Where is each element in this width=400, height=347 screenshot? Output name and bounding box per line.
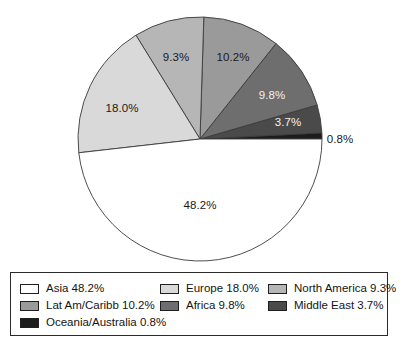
legend-item-label: Middle East 3.7%	[294, 299, 384, 312]
pie-slice-label: 10.2%	[216, 51, 249, 63]
legend-swatch-lat-am-caribb	[20, 301, 39, 311]
legend-item[interactable]: Lat Am/Caribb 10.2%	[20, 299, 160, 312]
legend-swatch-africa	[160, 301, 179, 311]
legend-item-label: Africa 9.8%	[186, 299, 245, 312]
pie-chart: 0.8%3.7%9.8%10.2%9.3%18.0%48.2%	[0, 0, 400, 268]
legend-item[interactable]: Middle East 3.7%	[268, 299, 382, 312]
legend-swatch-europe	[160, 284, 179, 294]
legend-row: Lat Am/Caribb 10.2%Africa 9.8%Middle Eas…	[20, 297, 382, 314]
pie-slice-group	[78, 17, 322, 261]
legend-item-label: Lat Am/Caribb 10.2%	[46, 299, 155, 312]
legend-swatch-oceania-australia	[20, 318, 39, 328]
legend-item-label: Europe 18.0%	[186, 282, 259, 295]
chart-legend: Asia 48.2%Europe 18.0%North America 9.3%…	[10, 272, 388, 336]
legend-row: Asia 48.2%Europe 18.0%North America 9.3%	[20, 280, 382, 297]
legend-grid: Asia 48.2%Europe 18.0%North America 9.3%…	[20, 280, 382, 331]
legend-swatch-asia	[20, 284, 39, 294]
legend-item[interactable]: Oceania/Australia 0.8%	[20, 316, 160, 329]
legend-item[interactable]: Africa 9.8%	[160, 299, 268, 312]
legend-swatch-north-america	[268, 284, 287, 294]
legend-item[interactable]: Europe 18.0%	[160, 282, 268, 295]
pie-slice-label: 18.0%	[105, 102, 138, 114]
pie-slice-label: 3.7%	[275, 116, 302, 128]
pie-slice-label: 48.2%	[183, 199, 216, 211]
legend-item[interactable]: Asia 48.2%	[20, 282, 160, 295]
legend-item-label: Asia 48.2%	[46, 282, 104, 295]
legend-swatch-middle-east	[268, 301, 287, 311]
legend-item[interactable]: North America 9.3%	[268, 282, 382, 295]
pie-slice-label: 9.8%	[259, 89, 286, 101]
legend-item-label: North America 9.3%	[294, 282, 396, 295]
legend-item-label: Oceania/Australia 0.8%	[46, 316, 166, 329]
legend-row: Oceania/Australia 0.8%	[20, 314, 382, 331]
pie-slice-label: 0.8%	[327, 133, 354, 145]
pie-slice-label: 9.3%	[163, 51, 190, 63]
